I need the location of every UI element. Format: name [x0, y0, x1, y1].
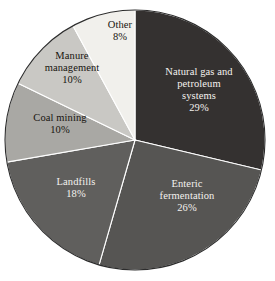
pie-slices-group: [5, 10, 265, 270]
pie-chart: Natural gas and petroleum systems 29% En…: [0, 0, 275, 281]
pie-chart-svg: [0, 0, 275, 281]
